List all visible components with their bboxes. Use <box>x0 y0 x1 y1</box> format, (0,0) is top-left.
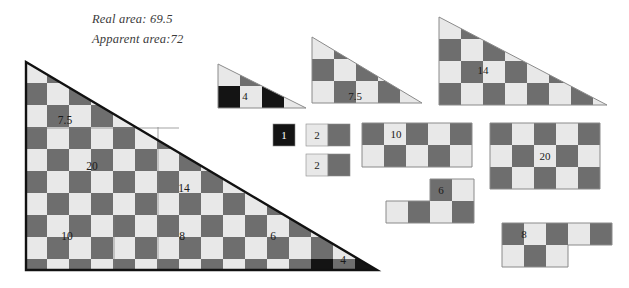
real-area-caption: Real area: 69.5 <box>92 12 173 27</box>
lshape-8-piece[interactable] <box>501 222 613 268</box>
rect-2-lower-piece[interactable] <box>305 153 351 177</box>
triangle-7point5-piece[interactable] <box>310 35 424 107</box>
rect-20-piece[interactable] <box>489 122 601 190</box>
rect-10-piece[interactable] <box>361 122 473 168</box>
triangle-14-piece[interactable] <box>437 15 609 107</box>
apparent-area-caption: Apparent area:72 <box>92 32 184 47</box>
figure-canvas: Real area: 69.5 Apparent area:72 7.5 20 … <box>0 0 629 288</box>
square-1-piece[interactable] <box>272 123 296 147</box>
triangle-4-piece[interactable] <box>216 62 308 108</box>
lshape-6-piece[interactable] <box>385 178 477 224</box>
rect-2-upper-piece[interactable] <box>305 123 351 147</box>
